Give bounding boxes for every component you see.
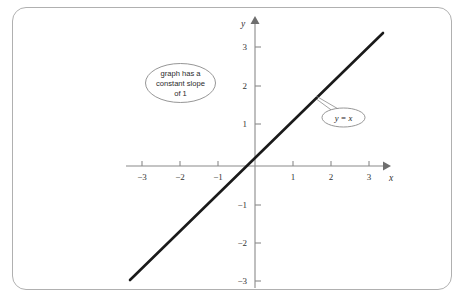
y-axis-arrow-icon — [251, 16, 260, 24]
slope-note-line-3: of 1 — [174, 89, 187, 98]
x-axis: −3 −2 −1 1 2 3 x — [126, 161, 394, 183]
x-tick-label--3: −3 — [137, 172, 147, 182]
equation-callout: y = x — [316, 96, 365, 127]
y-tick-label--2: −2 — [237, 238, 247, 248]
slope-note-line-2: constant slope — [156, 79, 205, 88]
slope-note-callout: graph has a constant slope of 1 — [146, 64, 216, 103]
y-axis-label: y — [240, 19, 246, 29]
equation-label: y = x — [334, 113, 353, 123]
y-tick-label-3: 3 — [243, 42, 248, 52]
x-axis-arrow-icon — [383, 162, 391, 171]
x-tick-label--2: −2 — [175, 172, 185, 182]
y-tick-label-1: 1 — [243, 119, 248, 129]
x-tick-label-1: 1 — [291, 172, 296, 182]
y-tick-label-2: 2 — [243, 81, 248, 91]
y-tick-label--3: −3 — [237, 276, 247, 286]
x-tick-label-2: 2 — [329, 172, 334, 182]
x-tick-label-3: 3 — [367, 172, 372, 182]
y-tick-label--1: −1 — [237, 200, 247, 210]
x-axis-label: x — [388, 173, 394, 183]
y-axis: 3 2 1 −1 −2 −3 y — [237, 16, 261, 288]
slope-note-line-1: graph has a — [160, 69, 201, 78]
x-tick-label--1: −1 — [213, 172, 223, 182]
